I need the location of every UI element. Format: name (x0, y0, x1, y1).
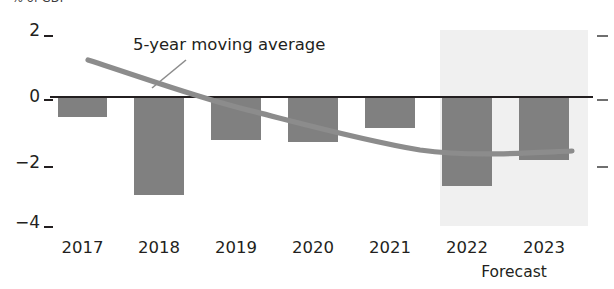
y-tick-mark-right-0 (597, 99, 608, 101)
bar-2019 (211, 98, 261, 140)
x-tick-label-2020: 2020 (288, 239, 338, 256)
chart-container: % of GDP 2 0 −2 −4 5-year moving average… (0, 0, 614, 289)
moving-average-annotation-label: 5-year moving average (133, 36, 325, 54)
y-axis-unit-label: % of GDP (12, 0, 67, 2)
y-tick-mark-0 (44, 99, 53, 101)
y-tick-label-minus2: −2 (0, 154, 40, 171)
x-tick-label-2021: 2021 (365, 239, 415, 256)
zero-baseline (50, 96, 593, 98)
x-tick-label-2017: 2017 (58, 239, 107, 256)
y-tick-label-minus4: −4 (0, 214, 40, 231)
x-tick-label-2018: 2018 (134, 239, 184, 256)
forecast-label: Forecast (440, 264, 588, 280)
bar-2020 (288, 98, 338, 142)
x-tick-label-2022: 2022 (442, 239, 492, 256)
y-tick-mark-minus2 (44, 166, 53, 168)
y-tick-mark-2 (44, 35, 53, 37)
bar-2018 (134, 98, 184, 195)
y-tick-mark-right-minus2 (597, 166, 608, 168)
y-tick-mark-minus4 (44, 226, 53, 228)
annotation-leader-line (152, 60, 186, 88)
bar-2023 (519, 98, 569, 160)
bar-2022 (442, 98, 492, 186)
y-tick-mark-right-2 (597, 35, 608, 37)
x-tick-label-2023: 2023 (519, 239, 569, 256)
y-tick-label-0: 0 (0, 88, 40, 105)
bar-2021 (365, 98, 415, 128)
x-tick-label-2019: 2019 (211, 239, 261, 256)
bar-2017 (58, 98, 107, 117)
y-tick-label-2: 2 (0, 22, 40, 39)
